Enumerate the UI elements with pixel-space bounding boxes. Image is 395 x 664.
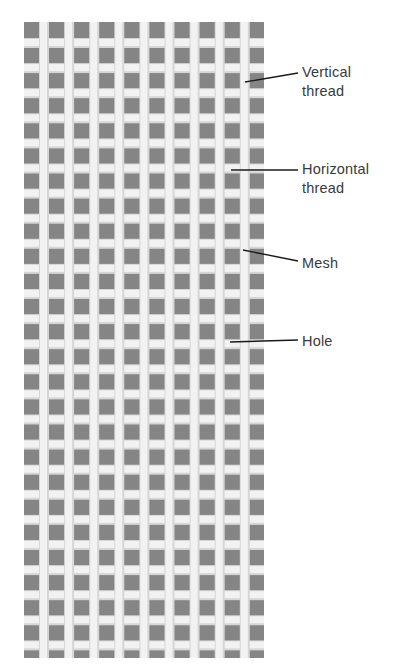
canvas-mesh bbox=[24, 22, 264, 658]
label-mesh: Mesh bbox=[302, 254, 338, 273]
label-vertical-thread: Vertical thread bbox=[302, 63, 351, 101]
label-hole: Hole bbox=[302, 332, 333, 351]
label-horizontal-thread: Horizontal thread bbox=[302, 160, 369, 198]
